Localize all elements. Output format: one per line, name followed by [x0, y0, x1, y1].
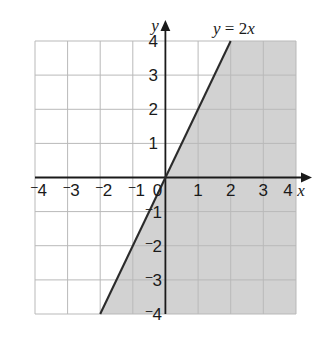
x-tick-label: 2	[226, 181, 235, 200]
equation-label: y = 2x	[211, 19, 255, 38]
x-tick-label: 1	[193, 181, 202, 200]
x-tick-label: –4	[31, 180, 47, 200]
x-axis-label: x	[296, 181, 305, 200]
y-tick-label: –4	[146, 304, 162, 324]
y-axis-arrow	[161, 20, 171, 31]
y-tick-label: 3	[149, 66, 158, 85]
x-tick-label: 3	[259, 181, 268, 200]
coordinate-plane-graph: y = 2x x y –4 –3 –2 –1 0 1 2 3 4 4 3 2 1…	[0, 0, 320, 342]
y-tick-label: 2	[149, 100, 158, 119]
y-tick-label: 4	[149, 32, 158, 51]
x-tick-label-zero: 0	[153, 181, 162, 200]
y-tick-label: 1	[149, 134, 158, 153]
x-tick-label: 4	[283, 181, 292, 200]
